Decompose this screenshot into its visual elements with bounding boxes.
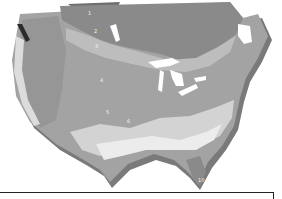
map-graphic	[0, 0, 282, 199]
frame-right-tick	[273, 192, 274, 199]
zone-label: 6	[127, 119, 130, 124]
zone-label: 4	[100, 78, 103, 83]
hardiness-zone-map: 1 2 3 4 5 6 10	[0, 0, 282, 199]
zone-label: 1	[88, 11, 91, 16]
frame-bottom-line	[0, 192, 274, 193]
zone-label: 5	[106, 110, 109, 115]
zone-label: 3	[95, 44, 98, 49]
zone-label: 2	[94, 29, 97, 34]
zone-label: 10	[198, 178, 204, 183]
